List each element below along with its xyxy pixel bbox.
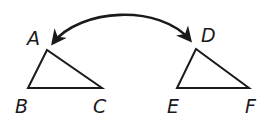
vertex-label-d: D bbox=[201, 26, 216, 45]
vertex-label-c: C bbox=[93, 97, 106, 116]
congruent-triangles-diagram bbox=[0, 0, 274, 122]
triangle-def bbox=[177, 49, 249, 88]
vertex-label-b: B bbox=[15, 97, 28, 116]
vertex-label-e: E bbox=[167, 97, 179, 116]
correspondence-arrow bbox=[53, 15, 190, 43]
vertex-label-a: A bbox=[27, 29, 40, 48]
triangle-abc bbox=[28, 50, 102, 88]
vertex-label-f: F bbox=[245, 97, 256, 116]
